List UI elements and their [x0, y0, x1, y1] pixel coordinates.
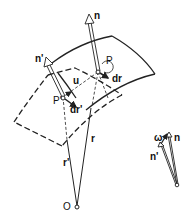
dr-arrow — [100, 73, 108, 78]
rotation-arrow — [66, 92, 71, 95]
label-u: u — [73, 76, 79, 86]
surface-solid — [52, 36, 155, 110]
origin-point — [75, 205, 79, 209]
label-O: O — [63, 202, 71, 212]
label-inset-n: n — [174, 133, 180, 143]
label-dr: dr — [112, 74, 122, 84]
surface-dashed — [14, 68, 122, 146]
label-omega: ω — [154, 133, 162, 143]
surface-diagram — [0, 0, 190, 214]
label-r: r — [91, 134, 95, 144]
label-dr-prime: dr' — [70, 105, 82, 115]
position-vectors — [67, 108, 91, 206]
inset-origin — [175, 183, 179, 187]
label-r-prime: r' — [63, 158, 69, 168]
label-P-prime: P' — [53, 96, 62, 106]
label-n: n — [94, 11, 100, 21]
label-P: P — [106, 56, 113, 66]
label-n-prime: n' — [35, 54, 44, 64]
label-inset-n-prime: n' — [150, 152, 159, 162]
point-P — [96, 70, 100, 74]
